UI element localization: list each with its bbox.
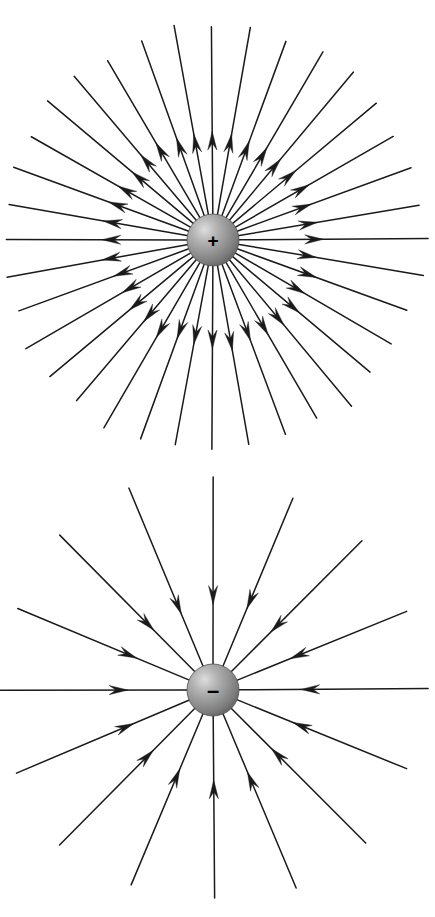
field-line [26,253,191,349]
field-line-arrowhead [118,647,137,659]
field-line [223,498,293,667]
field-line [213,715,214,898]
negative-charge-field-panel: – [0,460,435,917]
field-line [226,52,323,219]
field-line-arrowhead [293,722,312,733]
field-line-arrowhead [115,723,134,735]
field-line [7,244,188,277]
field-line [17,700,190,773]
field-line [217,28,250,216]
field-line-arrowhead [247,589,259,608]
field-line [231,541,362,673]
field-line [217,265,248,445]
field-line-arrowhead [156,319,170,338]
field-line [108,61,201,219]
field-line-arrowhead [253,148,267,167]
field-line [142,41,205,216]
field-line [174,25,208,215]
field-line [232,256,370,372]
field-line [238,239,428,240]
field-line-arrowhead [168,769,180,788]
field-line [6,239,188,240]
field-line [104,262,201,428]
field-line [9,205,188,236]
field-line [18,609,190,681]
field-line [238,689,428,690]
positive-charge-sphere: + [187,214,239,266]
charge-sign-label: – [207,678,219,703]
field-line [236,611,406,680]
field-line-arrowhead [291,185,310,198]
field-line [175,265,208,445]
negative-charge-field-diagram: – [0,460,435,917]
field-line-arrowhead [286,280,305,294]
field-line [131,713,203,885]
field-line-arrowhead [122,279,141,293]
negative-charge-sphere: – [187,664,239,716]
positive-charge-field-diagram: + [0,0,435,460]
field-line [19,249,190,311]
field-line [141,263,205,438]
field-line [212,265,213,449]
positive-charge-field-panel: + [0,0,435,460]
charge-sign-label: + [207,230,218,251]
field-line [231,708,366,843]
field-line [129,488,204,667]
field-line [236,699,406,768]
field-line [211,27,212,215]
field-line-arrowhead [255,316,269,335]
field-line-arrowhead [290,647,309,658]
field-line [223,713,296,888]
electric-field-figure: + – [0,0,435,917]
field-line-arrowhead [156,143,170,162]
field-line-arrowhead [247,772,259,791]
field-line-arrowhead [118,186,137,199]
field-line-arrowhead [170,595,182,614]
